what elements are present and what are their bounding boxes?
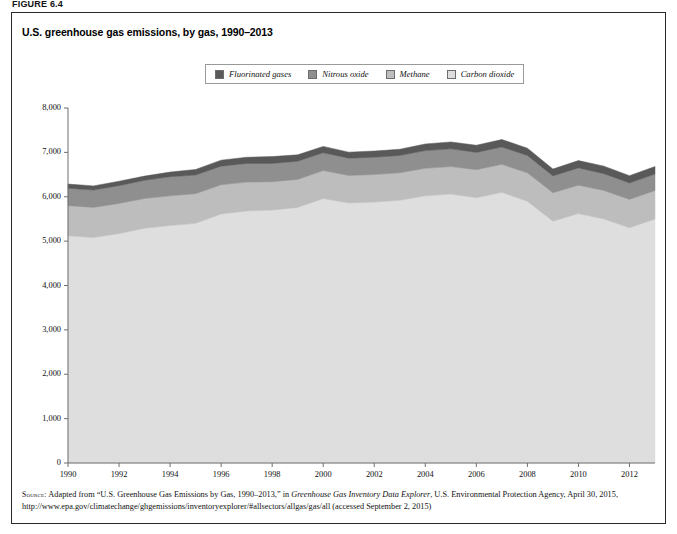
source-tag: Source: — [22, 490, 47, 499]
chart-legend: Fluorinated gasesNitrous oxideMethaneCar… — [205, 64, 524, 84]
legend-item: Carbon dioxide — [447, 69, 515, 79]
figure-frame — [11, 12, 666, 524]
legend-item: Nitrous oxide — [308, 69, 368, 79]
legend-swatch-icon — [308, 70, 317, 79]
legend-item: Fluorinated gases — [215, 69, 291, 79]
legend-swatch-icon — [447, 70, 456, 79]
legend-swatch-icon — [386, 70, 395, 79]
source-text-a: Adapted from “U.S. Greenhouse Gas Emissi… — [47, 490, 292, 499]
source-text-italic: Greenhouse Gas Inventory Data Explorer — [291, 490, 430, 499]
legend-label: Methane — [400, 69, 430, 79]
legend-item: Methane — [386, 69, 430, 79]
legend-label: Fluorinated gases — [229, 69, 291, 79]
legend-label: Nitrous oxide — [322, 69, 368, 79]
chart-title: U.S. greenhouse gas emissions, by gas, 1… — [22, 26, 273, 38]
figure-label: FIGURE 6.4 — [12, 0, 63, 9]
legend-swatch-icon — [215, 70, 224, 79]
source-note: Source: Adapted from “U.S. Greenhouse Ga… — [22, 489, 656, 513]
legend-label: Carbon dioxide — [461, 69, 515, 79]
